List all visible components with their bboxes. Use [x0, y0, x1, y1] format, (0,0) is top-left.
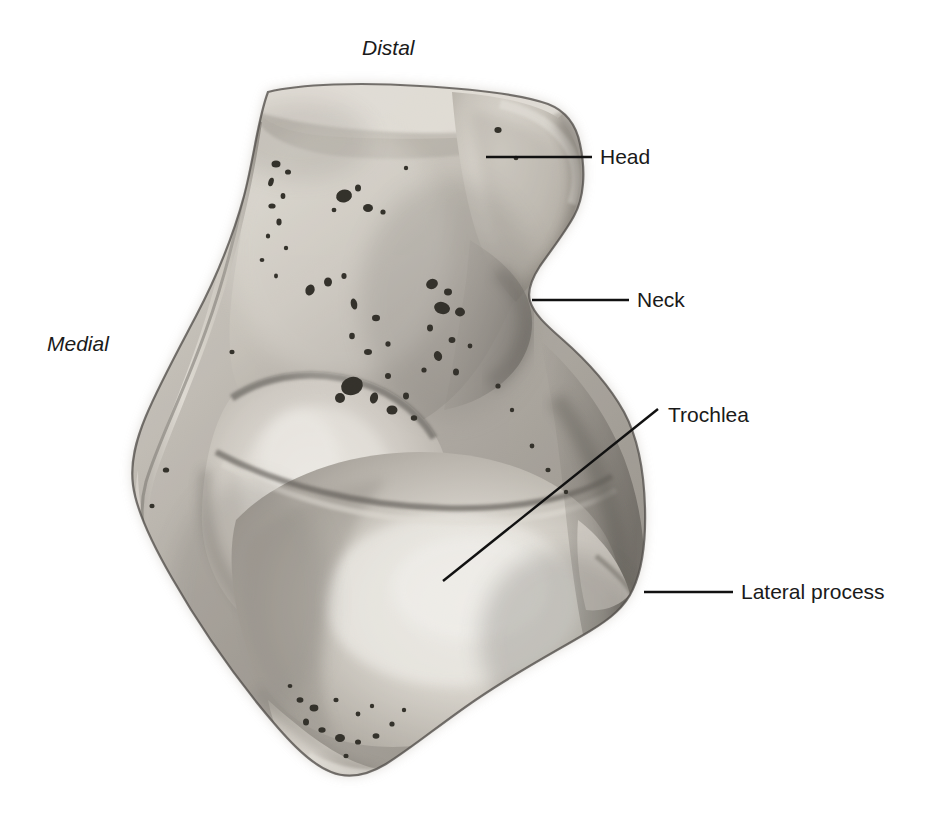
- figure-canvas: Distal Medial Head Neck Trochlea Lateral…: [0, 0, 929, 828]
- annotation-label-head: Head: [600, 145, 650, 169]
- orientation-label-medial: Medial: [47, 332, 109, 356]
- annotation-label-neck: Neck: [637, 288, 685, 312]
- leader-line-trochlea: [443, 409, 658, 581]
- annotation-label-lateral-process: Lateral process: [741, 580, 885, 604]
- leader-lines: [0, 0, 929, 828]
- annotation-label-trochlea: Trochlea: [668, 403, 749, 427]
- orientation-label-distal: Distal: [362, 36, 415, 60]
